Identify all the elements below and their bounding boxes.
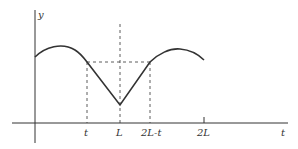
tick-label-2L: 2L [197,128,210,138]
curve [35,46,204,105]
tick-label-L: L [116,128,123,138]
y-axis-label: y [38,10,44,20]
tick-label-2L-t: 2L-t [141,128,161,138]
diagram: y t L 2L-t 2L t [0,0,298,149]
tick-label-t: t [84,128,88,138]
x-axis-label: t [281,128,285,138]
